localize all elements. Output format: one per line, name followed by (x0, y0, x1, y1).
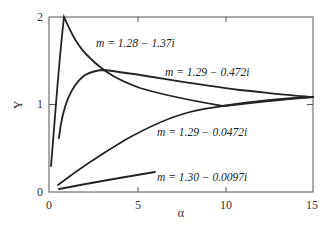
x-tick-0: 0 (46, 198, 52, 212)
curve-label-1: m = 1.28 − 1.37i (96, 37, 175, 49)
chart: 0 5 10 15 0 1 2 α Y m = 1.28 − 1.37i m =… (0, 0, 332, 230)
x-tick-5: 5 (135, 198, 141, 212)
curve-label-2: m = 1.29 − 0.472i (165, 66, 250, 78)
x-tick-15: 15 (306, 198, 318, 212)
y-tick-2: 2 (37, 10, 43, 24)
y-axis-label: Y (11, 100, 25, 109)
y-tick-0: 0 (37, 185, 43, 199)
x-tick-10: 10 (220, 198, 232, 212)
curve-m-1.28-1.37i (51, 17, 313, 166)
ticks (49, 17, 313, 192)
plot-frame (49, 17, 313, 192)
y-tick-1: 1 (37, 97, 43, 111)
x-axis-label: α (178, 206, 185, 220)
curve-label-4: m = 1.30 − 0.0097i (157, 171, 247, 183)
curve-label-3: m = 1.29 − 0.0472i (157, 126, 247, 138)
